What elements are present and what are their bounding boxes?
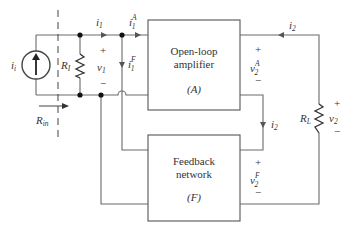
feedback-amplifier-diagram: ii RI RL Open-loop amplifier (A) Feedbac… (0, 0, 355, 230)
source-label: ii (11, 59, 16, 73)
input-resistor-icon (76, 54, 84, 78)
svg-text:Open-loop: Open-loop (170, 45, 218, 57)
current-source-icon (22, 51, 50, 79)
v2F-voltage: + vF2 − (250, 156, 261, 198)
load-resistor-label: RL (299, 112, 311, 126)
input-resistor-label: RI (60, 59, 71, 73)
i1-label: i1 (96, 16, 103, 30)
rin-indicator: Rin (35, 103, 69, 128)
svg-text:Rin: Rin (35, 114, 49, 128)
feedback-network-block: Feedback network (F) (148, 135, 240, 221)
i2-top-arrow-icon (278, 32, 284, 38)
svg-text:amplifier: amplifier (174, 58, 215, 70)
svg-text:+: + (334, 97, 340, 109)
svg-text:v2: v2 (329, 112, 338, 126)
i1F-arrow-icon (119, 62, 125, 68)
svg-text:+: + (100, 44, 106, 56)
open-loop-amplifier-block: Open-loop amplifier (A) (148, 20, 240, 110)
i2-feedback-arrow-icon (260, 122, 266, 128)
svg-text:−: − (100, 77, 106, 89)
svg-text:−: − (334, 125, 340, 137)
i2-feedback-label: i2 (271, 118, 278, 132)
svg-text:+: + (255, 43, 261, 55)
i1F-label: iF1 (128, 55, 136, 73)
svg-text:Feedback: Feedback (173, 155, 216, 167)
svg-text:+: + (255, 156, 261, 168)
v2-voltage: + v2 − (329, 97, 340, 137)
v2A-voltage: + vA2 − (250, 43, 261, 86)
v1-voltage: + v1 − (97, 44, 106, 89)
i2-top-label: i2 (289, 19, 296, 33)
i1A-label: iA1 (129, 13, 137, 31)
load-resistor-icon (315, 104, 323, 133)
i1-arrow-icon (101, 32, 107, 38)
svg-text:(A): (A) (187, 83, 201, 96)
svg-text:v1: v1 (97, 61, 106, 75)
i1A-arrow-icon (135, 32, 141, 38)
svg-text:−: − (255, 186, 261, 198)
svg-text:−: − (255, 74, 261, 86)
svg-text:(F): (F) (187, 191, 201, 204)
svg-text:network: network (176, 168, 213, 180)
